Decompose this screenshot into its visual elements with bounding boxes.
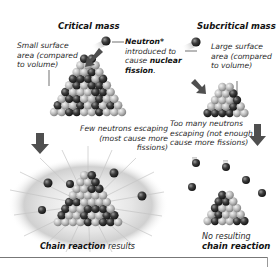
incoming-neutron-icon [91,36,110,51]
subcritical-surface-note: Large surface area (compared to volume) [211,42,272,71]
divider [0,257,268,258]
no-chain-reaction-sphere-pile [203,191,248,225]
neutron-arrow-icon [191,79,206,94]
neutron-label: Neutron* introduced to cause nuclear fis… [125,37,182,75]
chain-reaction-result: Chain reaction results [40,242,135,252]
incoming-neutron-icon [181,37,200,52]
subcritical-mass-sphere-pile [203,83,248,117]
down-arrow-icon [31,133,49,154]
few-neutrons-escaping-note: Few neutrons escaping (most cause more f… [56,124,168,153]
critical-mass-title: Critical mass [58,21,120,31]
too-many-neutrons-note: Too many neutrons escaping (not enough c… [170,119,253,148]
escaping-neutrons-subcritical [188,157,266,197]
divider [267,257,268,267]
critical-surface-note: Small surface area (compared to volume) [17,41,78,70]
no-chain-reaction-result: No resulting chain reaction [202,232,270,251]
subcritical-mass-title: Subcritical mass [197,21,276,31]
